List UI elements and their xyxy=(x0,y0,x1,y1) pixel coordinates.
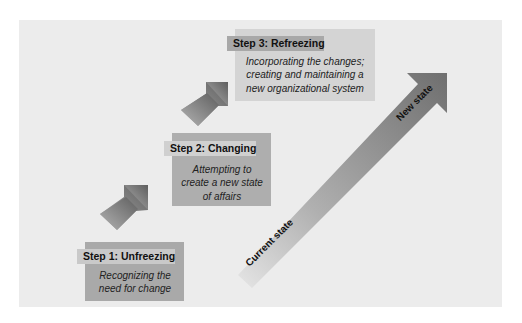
step-3-desc-line: creating and maintaining a xyxy=(237,68,373,81)
step-2-desc-line: of affairs xyxy=(176,190,268,203)
step-3-box: Step 3: Refreezing Incorporating the cha… xyxy=(235,29,375,101)
step-3-desc-line: new organizational system xyxy=(237,82,373,95)
step-arrow-1-icon xyxy=(100,185,148,230)
step-2-desc-line: create a new state xyxy=(176,176,268,189)
step-1-description: Recognizing the need for change xyxy=(89,269,181,296)
step-1-desc-line: Recognizing the xyxy=(89,269,181,282)
step-1-box: Step 1: Unfreezing Recognizing the need … xyxy=(85,242,184,301)
step-2-box: Step 2: Changing Attempting to create a … xyxy=(172,133,271,206)
step-1-heading: Step 1: Unfreezing xyxy=(77,249,175,264)
step-3-description: Incorporating the changes; creating and … xyxy=(237,55,373,95)
step-2-desc-line: Attempting to xyxy=(176,163,268,176)
step-2-heading: Step 2: Changing xyxy=(164,141,256,156)
step-1-desc-line: need for change xyxy=(89,282,181,295)
step-2-description: Attempting to create a new state of affa… xyxy=(176,163,268,203)
step-arrow-2-icon xyxy=(181,82,228,126)
step-3-desc-line: Incorporating the changes; xyxy=(237,55,373,68)
step-3-heading: Step 3: Refreezing xyxy=(227,36,324,51)
